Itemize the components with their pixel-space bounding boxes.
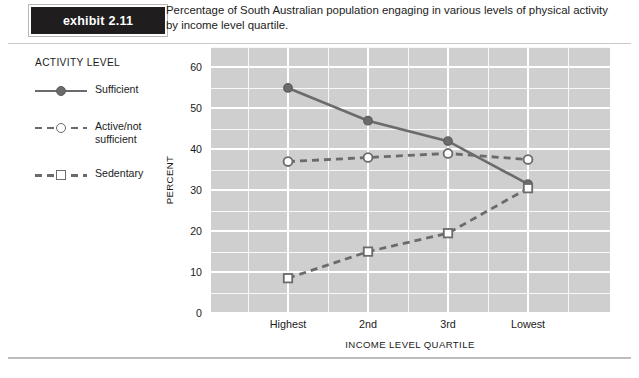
y-axis-tick-label: 30: [172, 184, 202, 196]
x-axis-tick-label: Lowest: [511, 318, 545, 330]
x-axis-tick-label: 2nd: [359, 318, 377, 330]
exhibit-figure: exhibit2.11 Percentage of South Australi…: [0, 0, 639, 378]
x-axis-title: INCOME LEVEL QUARTILE: [345, 339, 474, 350]
y-axis-title: PERCENT: [164, 156, 175, 205]
x-axis-tick-label: Highest: [270, 318, 307, 330]
x-axis-tick-label: 3rd: [440, 318, 456, 330]
y-axis-tick-label: 50: [172, 102, 202, 114]
axis-labels: 0102030405060Highest2nd3rdLowest: [0, 0, 639, 378]
y-axis-tick-label: 10: [172, 266, 202, 278]
y-axis-tick-label: 40: [172, 143, 202, 155]
y-axis-tick-label: 0: [172, 307, 202, 319]
y-axis-tick-label: 20: [172, 225, 202, 237]
y-axis-tick-label: 60: [172, 61, 202, 73]
